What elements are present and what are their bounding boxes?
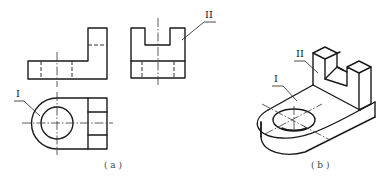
caption-a: ( a ): [104, 160, 122, 170]
label-I-a: I: [16, 88, 20, 99]
caption-b: ( b ): [311, 160, 330, 170]
isometric-base-plate: [257, 85, 375, 154]
label-I-leader-b: [272, 86, 297, 101]
panel-b-isometric-view: [257, 47, 375, 154]
label-II-leader-b: [294, 61, 318, 73]
front-view: [28, 28, 107, 87]
engineering-drawing-figure: I II II I ( a ) ( b ): [0, 0, 388, 186]
panel-a-orthographic-views: [14, 18, 216, 155]
side-view: [131, 18, 185, 86]
isometric-hole: [262, 104, 330, 140]
label-I-b: I: [274, 73, 278, 84]
top-view: [22, 92, 113, 155]
label-II-leader-a: [182, 22, 216, 40]
drawing-canvas: [0, 0, 388, 186]
label-II-a: II: [205, 9, 213, 20]
label-II-b: II: [296, 48, 304, 59]
